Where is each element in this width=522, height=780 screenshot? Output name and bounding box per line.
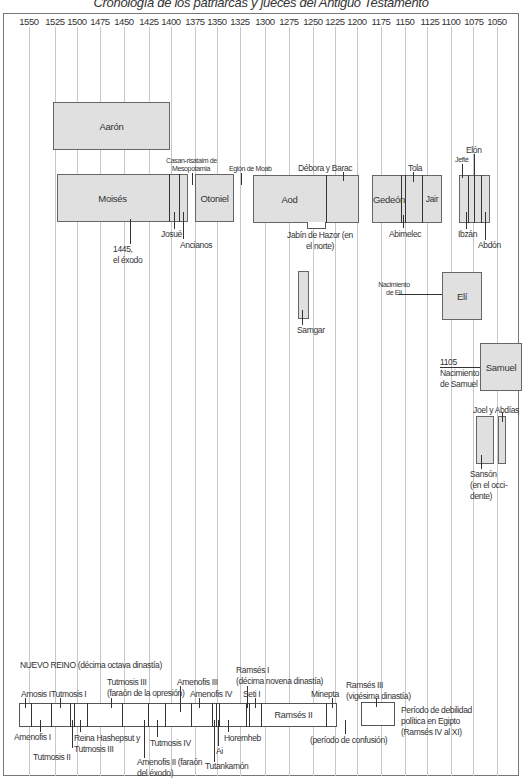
span-sanson: [476, 416, 494, 464]
label-minepta: Minepta: [311, 689, 339, 699]
egypt-divider: [51, 703, 52, 727]
egypt-ramses2-label: Ramsés II: [261, 710, 326, 720]
leader-josue: [174, 212, 175, 229]
egypt-title: NUEVO REINO (décima octava dinastía): [20, 660, 162, 670]
span-eli: Elí: [442, 272, 482, 320]
label-seti: Seti I: [243, 689, 260, 699]
label-ramses3-line2: (vigésima dinastía): [346, 691, 411, 701]
label-casan-line1: Casan-risataim de: [166, 157, 216, 165]
leader-tutmosis3: [111, 698, 112, 708]
grid-line: [195, 27, 196, 776]
grid-line: [357, 27, 358, 776]
label-ai: Ai: [216, 746, 223, 756]
span-aaron: Aarón: [53, 102, 170, 150]
label-josue: Josué: [161, 229, 182, 239]
label-jair: Jair: [422, 194, 442, 204]
label-amenofis2-line1: Amenofis II (faraón: [137, 757, 202, 767]
label-debilidad-line3: (Ramsés IV al XI): [401, 727, 462, 737]
leader-tutmosis4: [157, 720, 158, 737]
jabin-marker: [307, 222, 326, 229]
divider-abimelec-1: [401, 175, 402, 223]
label-ramses3-line1: Ramsés III: [346, 680, 383, 690]
leader-abimelec: [403, 215, 404, 228]
label-sanson-line1: Sansón: [470, 469, 497, 479]
span-samgar: [298, 271, 309, 319]
label-ramses1-line2: (décima novena dinastía): [236, 676, 323, 686]
leader-hashepsut-1: [72, 720, 73, 748]
leader-tutankamon: [214, 720, 215, 762]
leader-nac-eli: [398, 294, 442, 295]
leader-confusion: [345, 720, 346, 734]
leader-eglon: [241, 173, 242, 185]
label-tola: Tola: [408, 163, 422, 173]
span-label: Samuel: [481, 362, 521, 373]
egypt-divider: [219, 703, 220, 727]
leader-amenofis3: [180, 686, 181, 712]
grid-line: [265, 27, 266, 776]
label-tutmosis2: Tutmosis II: [33, 752, 70, 762]
span-label: Aod: [254, 194, 325, 205]
grid-line: [313, 27, 314, 776]
egypt-divider: [249, 703, 250, 727]
span-label: Elí: [443, 291, 481, 302]
grid-line: [381, 27, 382, 776]
divider-abimelec-2: [405, 175, 406, 223]
leader-jefte: [462, 164, 463, 178]
grid-line: [335, 27, 336, 776]
egypt-ramses3-box: [361, 702, 395, 726]
label-jefte: Jefté: [455, 156, 468, 164]
label-exodo-text: el éxodo: [113, 255, 142, 265]
grid-line: [427, 27, 428, 776]
span-joel-abdias: [498, 416, 506, 464]
span-otoniel: Otoniel: [195, 174, 234, 222]
label-nac-eli-line2: de Elí: [376, 289, 412, 297]
divider-abdon: [481, 175, 482, 223]
grid-line: [473, 27, 474, 776]
label-exodo-year: 1445,: [113, 244, 133, 254]
label-amenofis4: Amenofis IV: [190, 689, 232, 699]
label-abimelec: Abimelec: [389, 229, 421, 239]
label-hashepsut-line2: Tutmosis III: [74, 744, 113, 754]
grid-line: [171, 27, 172, 776]
leader-joel: [502, 412, 503, 422]
label-nac-eli-line1: Nacimiento: [376, 281, 412, 289]
leader-abdon: [485, 212, 486, 240]
leader-amenofis2: [144, 720, 145, 758]
divider-josue: [169, 174, 170, 222]
grid-line: [289, 27, 290, 776]
egypt-divider: [87, 703, 88, 727]
label-debora: Débora y Barac: [298, 163, 352, 173]
label-joel-abdias: Joel y Abdías: [473, 405, 519, 415]
grid-line: [497, 27, 498, 776]
leader-minepta: [332, 698, 333, 708]
label-nac-samuel-line2: de Samuel: [440, 379, 478, 389]
chart-title: Cronología de los patriarcas y jueces de…: [0, 0, 522, 10]
leader-elon: [474, 154, 475, 180]
grid-line: [451, 27, 452, 776]
axis-tick-label: 1050: [482, 16, 512, 27]
label-amenofis1: Amenofis I: [14, 732, 51, 742]
label-jabin-line2: el norte): [280, 241, 360, 251]
egypt-divider: [70, 703, 71, 727]
egypt-divider: [122, 703, 123, 727]
egypt-divider: [191, 703, 192, 727]
egypt-divider: [212, 703, 213, 727]
label-jabin-line1: Jabín de Hazor (en: [280, 230, 360, 240]
egypt-divider: [326, 703, 327, 727]
label-tutmosis4: Tutmosis IV: [150, 738, 191, 748]
leader-amenofis4: [199, 698, 200, 708]
leader-seti: [255, 698, 256, 708]
label-ancianos: Ancianos: [180, 240, 212, 250]
leader-ibzan: [466, 212, 467, 229]
leader-hashepsut-2: [80, 720, 81, 732]
grid-line: [217, 27, 218, 776]
egypt-divider: [165, 703, 166, 727]
label-amenofis3: Amenofis III: [177, 677, 218, 687]
span-samuel: Samuel: [480, 343, 522, 391]
leader-samgar: [302, 310, 303, 325]
label-tutmosis1: Tutmosis I: [51, 689, 86, 699]
leader-tutmosis1: [60, 698, 61, 708]
egypt-divider: [148, 703, 149, 727]
grid-line: [405, 27, 406, 776]
label-abdon: Abdón: [478, 240, 501, 250]
